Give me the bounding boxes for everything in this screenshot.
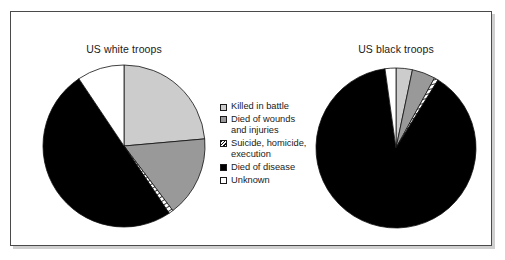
legend-item-died-of-wounds: Died of wounds and injuries <box>220 114 316 137</box>
figure-canvas: US white troops US black troops <box>0 0 505 260</box>
figure-frame: US white troops US black troops <box>10 11 492 246</box>
legend-item-unknown: Unknown <box>220 175 316 187</box>
legend-label-died-of-disease: Died of disease <box>231 162 295 174</box>
pie-chart-us-black-troops <box>314 66 478 230</box>
legend-swatch-suicide-homicide-execution <box>220 140 227 147</box>
pie-chart-us-white-troops <box>41 64 207 230</box>
pie-slice <box>124 65 205 146</box>
chart-legend: Killed in battle Died of wounds and inju… <box>220 101 316 187</box>
legend-swatch-died-of-disease <box>220 164 227 171</box>
legend-label-killed-in-battle: Killed in battle <box>231 101 289 113</box>
legend-label-suicide-homicide-execution: Suicide, homicide, execution <box>231 138 306 161</box>
pie-right-slices <box>316 68 476 228</box>
legend-swatch-unknown <box>220 177 227 184</box>
chart-title-right: US black troops <box>326 43 466 55</box>
chart-title-left: US white troops <box>54 43 194 55</box>
legend-item-suicide-homicide-execution: Suicide, homicide, execution <box>220 138 316 161</box>
legend-swatch-died-of-wounds <box>220 116 227 123</box>
legend-label-unknown: Unknown <box>231 175 270 187</box>
legend-label-died-of-wounds: Died of wounds and injuries <box>231 114 295 137</box>
legend-item-killed-in-battle: Killed in battle <box>220 101 316 113</box>
legend-item-died-of-disease: Died of disease <box>220 162 316 174</box>
pie-left-slices <box>43 65 205 227</box>
legend-swatch-killed-in-battle <box>220 104 227 111</box>
